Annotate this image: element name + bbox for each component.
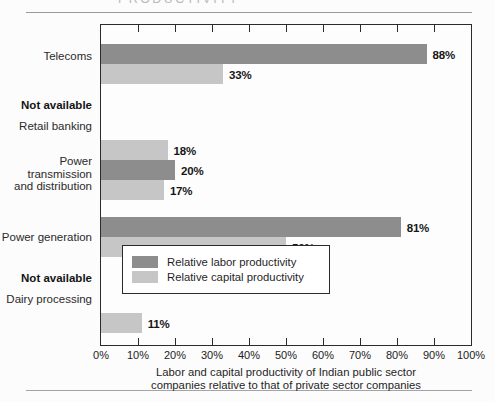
x-axis-tick-label: 50% [266, 349, 306, 361]
x-axis-tick-bottom [249, 338, 250, 345]
x-axis-tick-bottom [323, 338, 324, 345]
bar-value-capital: 33% [229, 69, 251, 81]
header-rule [26, 12, 472, 13]
x-axis-tick-bottom [360, 338, 361, 345]
bar-capital-productivity [101, 313, 142, 333]
bar-value-capital: 17% [170, 185, 192, 197]
x-axis-tick-top [360, 25, 361, 32]
x-axis-caption: Labor and capital productivity of Indian… [100, 366, 472, 392]
x-axis-tick-top [138, 25, 139, 32]
x-axis-tick-top [397, 25, 398, 32]
legend-label-capital: Relative capital productivity [167, 271, 304, 283]
x-axis-tick-bottom [286, 338, 287, 345]
not-available-label: Not available [21, 99, 92, 111]
bar-value-labor: 20% [181, 165, 203, 177]
page-title: PRODUCTIVITY [118, 0, 240, 6]
not-available-label: Not available [21, 272, 92, 284]
x-axis-tick-label: 70% [340, 349, 380, 361]
figure-page: PRODUCTIVITY 88%33%Telecoms18%Not availa… [0, 0, 495, 402]
figure-title-strip: PRODUCTIVITY [0, 0, 495, 9]
x-axis-tick-label: 40% [229, 349, 269, 361]
bar-capital-productivity [101, 140, 168, 160]
x-axis-tick-top [212, 25, 213, 32]
x-axis-tick-label: 100% [451, 349, 491, 361]
bar-capital-productivity [101, 64, 223, 84]
bar-labor-productivity [101, 44, 427, 64]
x-axis-tick-bottom [397, 338, 398, 345]
x-axis-tick-top [249, 25, 250, 32]
bar-labor-productivity [101, 217, 401, 237]
legend-item-labor: Relative labor productivity [132, 256, 320, 268]
x-axis-tick-label: 20% [155, 349, 195, 361]
x-axis-tick-bottom [138, 338, 139, 345]
x-axis-tick-top [434, 25, 435, 32]
x-axis-tick-bottom [175, 338, 176, 345]
x-axis-tick-bottom [212, 338, 213, 345]
bar-value-labor: 88% [433, 49, 455, 61]
bar-value-capital: 11% [148, 318, 170, 330]
category-label: Power transmission and distribution [14, 155, 92, 193]
x-axis-tick-label: 0% [81, 349, 121, 361]
x-axis-tick-label: 80% [377, 349, 417, 361]
category-label: Retail banking [19, 120, 92, 133]
legend-item-capital: Relative capital productivity [132, 271, 320, 283]
bar-capital-productivity [101, 180, 164, 200]
bar-labor-productivity [101, 160, 175, 180]
chart-legend: Relative labor productivity Relative cap… [122, 245, 330, 294]
bar-value-labor: 81% [407, 222, 429, 234]
bar-value-capital: 18% [174, 145, 196, 157]
category-label: Dairy processing [6, 293, 92, 306]
x-axis-tick-top [286, 25, 287, 32]
x-axis-tick-label: 60% [303, 349, 343, 361]
legend-swatch-labor-icon [132, 256, 158, 268]
legend-swatch-capital-icon [132, 271, 158, 283]
x-axis-tick-top [323, 25, 324, 32]
category-label: Power generation [2, 231, 92, 244]
category-label: Telecoms [43, 50, 92, 63]
x-axis-tick-bottom [434, 338, 435, 345]
x-axis-tick-label: 30% [192, 349, 232, 361]
x-axis-tick-label: 90% [414, 349, 454, 361]
x-axis-tick-top [175, 25, 176, 32]
legend-label-labor: Relative labor productivity [167, 256, 296, 268]
x-axis-tick-label: 10% [118, 349, 158, 361]
